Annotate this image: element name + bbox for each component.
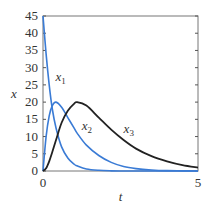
series-x1-line <box>43 16 198 171</box>
chart: 05101520253035404505txx1x2x3 <box>0 0 211 204</box>
y-tick-label: 20 <box>25 94 38 109</box>
label-x1: x1 <box>54 69 65 86</box>
y-tick-label: 10 <box>25 129 38 144</box>
x-tick-label: 0 <box>40 175 47 190</box>
y-tick-label: 25 <box>25 77 38 92</box>
y-tick-label: 45 <box>25 8 38 23</box>
y-axis-label: x <box>10 86 17 101</box>
plot-area: 05101520253035404505txx1x2x3 <box>10 8 201 204</box>
plot-frame <box>43 16 198 171</box>
x-axis-label: t <box>119 189 123 204</box>
y-tick-label: 0 <box>32 163 39 178</box>
series-x3-line <box>43 102 198 171</box>
y-tick-label: 30 <box>25 60 38 75</box>
y-tick-label: 35 <box>25 42 38 57</box>
label-x3: x3 <box>123 121 135 138</box>
y-tick-label: 15 <box>25 111 38 126</box>
y-tick-label: 5 <box>32 146 39 161</box>
y-tick-label: 40 <box>25 25 38 40</box>
label-x2: x2 <box>81 118 92 135</box>
x-tick-label: 5 <box>195 175 202 190</box>
